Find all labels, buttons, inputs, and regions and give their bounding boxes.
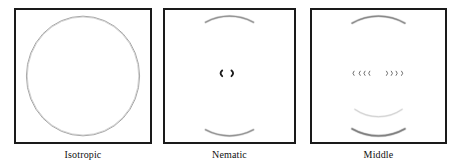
center-crescent-middle-R3 [402,71,403,75]
panel-nematic [163,8,296,144]
diffraction-pattern-nematic [163,8,296,144]
panel-middle [310,8,447,144]
diffraction-pattern-isotropic [14,8,152,144]
diffraction-arcs-nematic [206,16,254,136]
diffraction-center-marks-middle [353,71,403,75]
panel-label-isotropic: Isotropic [14,149,152,161]
diffraction-figure: Isotropic Nematic Middle [0,0,456,168]
center-crescent-nematic-0 [221,70,223,76]
center-crescent-middle-R0 [387,71,388,75]
center-crescent-middle-L2 [364,71,365,75]
center-crescent-middle-L1 [359,71,360,75]
panel-plot-nematic [163,8,296,144]
panel-plot-isotropic [14,8,152,144]
center-crescent-middle-R1 [391,71,392,75]
center-crescent-nematic-1 [231,70,233,76]
diffraction-ring-isotropic-inner [27,17,139,135]
panel-label-middle: Middle [310,149,447,161]
panel-isotropic [14,8,152,144]
diffraction-arcs-middle [352,16,405,136]
center-crescent-middle-L3 [369,71,370,75]
panel-plot-middle [310,8,447,144]
panel-label-nematic: Nematic [163,149,296,161]
diffraction-pattern-middle [310,8,447,144]
center-crescent-middle-R2 [396,71,397,75]
diffraction-center-marks-nematic [221,70,234,76]
center-crescent-middle-L0 [353,71,354,75]
